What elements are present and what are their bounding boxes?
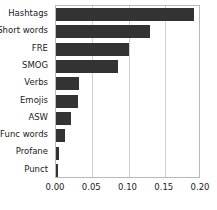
y-tick-label-verbs: Verbs [24,74,48,91]
y-axis-labels: HashtagsShort wordsFRESMOGVerbsEmojisASW… [0,5,52,178]
y-tick-label-func-words: Func words [0,126,48,143]
x-tick-label-0.20: 0.20 [191,182,210,192]
bar-verbs [56,77,79,90]
x-tick-label-0.15: 0.15 [154,182,173,192]
bar-chart: HashtagsShort wordsFRESMOGVerbsEmojisASW… [0,0,217,210]
bar-hashtags [56,8,194,21]
y-tick-label-asw: ASW [28,109,48,126]
y-tick-label-smog: SMOG [22,57,48,74]
bar-punct [56,164,58,177]
x-tick-label-0.00: 0.00 [46,182,65,192]
bar-asw [56,112,71,125]
bar-func-words [56,129,65,142]
x-tick-label-0.05: 0.05 [82,182,101,192]
bar-smog [56,60,118,73]
y-tick-label-punct: Punct [24,161,48,178]
bar-emojis [56,95,78,108]
y-tick-label-hashtags: Hashtags [8,5,48,22]
y-tick-label-profane: Profane [16,143,48,160]
x-tick-label-0.10: 0.10 [118,182,137,192]
y-tick-label-short-words: Short words [0,22,48,39]
bar-row [56,162,199,179]
bar-short-words [56,25,150,38]
bar-row [56,144,199,161]
bar-row [56,127,199,144]
bar-row [56,110,199,127]
y-tick-label-fre: FRE [32,40,48,57]
bar-row [56,6,199,23]
plot-area [55,5,200,178]
bar-fre [56,43,129,56]
bar-row [56,75,199,92]
bar-row [56,58,199,75]
x-axis-labels: 0.000.050.100.150.20 [0,182,217,196]
bars-container [56,6,199,177]
bar-profane [56,147,59,160]
y-tick-label-emojis: Emojis [20,92,48,109]
bar-row [56,23,199,40]
bar-row [56,41,199,58]
bar-row [56,93,199,110]
